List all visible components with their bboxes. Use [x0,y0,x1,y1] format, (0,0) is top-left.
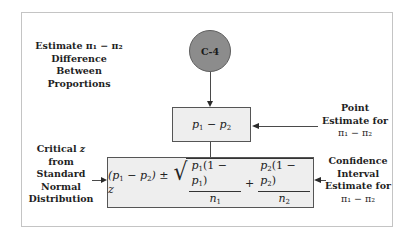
confidence-interval-label: Confidence Interval Estimate for π₁ − π₂ [322,155,394,205]
point-estimate-formula: p1 − p2 [192,118,231,132]
interval-formula: (p1 − p2) ± z √ p1(1 − p1) n1 + p2(1 − p… [108,158,313,208]
pi-difference: π₁ − π₂ [86,40,123,51]
node-id-label: C-4 [201,46,219,57]
estimate-for-text: Estimate for [318,115,392,128]
point-arrow-line [256,126,318,127]
normal-text: Normal [26,181,96,194]
interval-text: Interval [322,168,394,181]
critical-z-label: Critical z from Standard Normal Distribu… [26,143,96,206]
point-estimate-label: Point Estimate for π₁ − π₂ [318,102,392,140]
point-text: Point [318,102,392,115]
estimate-difference-label: Estimate π₁ − π₂ Difference Between Prop… [30,40,128,90]
sqrt-expression: √ p1(1 − p1) n1 + p2(1 − p2) n2 [173,158,313,208]
arrow-left-icon [314,177,321,183]
pi-difference: π₁ − π₂ [318,127,392,140]
estimate-text: Estimate [35,40,86,51]
from-standard-text: from Standard [26,156,96,181]
pi-difference: π₁ − π₂ [322,193,394,206]
plus-sign: + [245,177,254,190]
fraction-1: p1(1 − p1) n1 [189,160,241,208]
formula-left-term: (p1 − p2) ± z [108,169,171,196]
fraction-2: p2(1 − p2) n2 [258,160,310,208]
point-estimate-box: p1 − p2 [172,107,251,142]
estimate-for-text: Estimate for [322,180,394,193]
proportions-text: Proportions [30,78,128,91]
confidence-interval-box: (p1 − p2) ± z √ p1(1 − p1) n1 + p2(1 − p… [107,157,314,208]
sqrt-icon: √ [173,155,187,210]
confidence-text: Confidence [322,155,394,168]
connector-circle-to-point [210,72,211,103]
node-c4-circle: C-4 [189,30,231,72]
arrow-left-icon [252,123,259,129]
difference-between-text: Difference Between [30,53,128,78]
connector-point-to-interval [210,142,211,157]
distribution-text: Distribution [26,193,96,206]
